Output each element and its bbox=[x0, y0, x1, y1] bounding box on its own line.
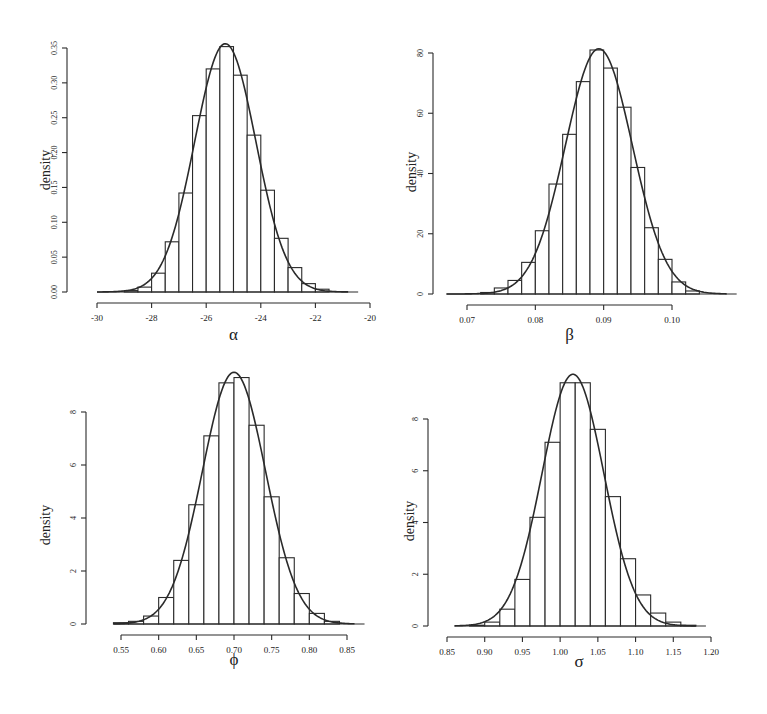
x-tick-label: 0.60 bbox=[151, 645, 167, 655]
histogram-bar bbox=[264, 497, 279, 624]
histogram-bar bbox=[590, 429, 605, 626]
histogram-bar bbox=[515, 579, 530, 626]
x-tick-label: 0.90 bbox=[477, 647, 493, 657]
chart-sigma: 0.850.900.951.001.051.101.151.20σ02468de… bbox=[384, 357, 767, 714]
x-axis-label: ϕ bbox=[230, 650, 239, 669]
histogram-bar bbox=[138, 287, 152, 292]
x-tick-label: 0.95 bbox=[515, 647, 531, 657]
x-axis: 0.070.080.090.10β bbox=[459, 305, 680, 344]
histogram-bar bbox=[261, 190, 275, 292]
x-tick-label: 1.10 bbox=[628, 647, 644, 657]
y-tick-label: 0.35 bbox=[50, 41, 59, 55]
y-tick-label: 6 bbox=[69, 463, 78, 467]
x-tick-label: -30 bbox=[91, 313, 103, 323]
histogram-bar bbox=[220, 47, 234, 292]
histogram-bar bbox=[206, 69, 220, 292]
panel-beta: 0.070.080.090.10β020406080density β dens… bbox=[384, 0, 767, 357]
y-tick-label: 80 bbox=[416, 49, 425, 57]
y-tick-label: 2 bbox=[411, 572, 420, 576]
y-axis: 020406080density bbox=[404, 49, 433, 296]
y-tick-label: 0.10 bbox=[50, 215, 59, 229]
panel-phi: 0.550.600.650.700.750.800.85ϕ02468densit… bbox=[0, 357, 384, 714]
panel-sigma: 0.850.900.951.001.051.101.151.20σ02468de… bbox=[384, 357, 767, 714]
x-tick-label: 0.65 bbox=[188, 645, 204, 655]
x-tick-label: 0.09 bbox=[596, 315, 612, 325]
panel-alpha: -30-28-26-24-22-20α0.000.050.100.150.200… bbox=[0, 0, 384, 357]
x-tick-label: 1.20 bbox=[703, 647, 719, 657]
histogram-bars bbox=[470, 383, 696, 626]
x-axis-label: σ bbox=[574, 652, 583, 671]
histogram-bar bbox=[620, 559, 635, 626]
y-tick-label: 0.30 bbox=[50, 76, 59, 90]
histogram-bar bbox=[590, 50, 604, 294]
y-tick-label: 0.00 bbox=[50, 285, 59, 299]
histogram-bar bbox=[174, 560, 189, 624]
y-tick-label: 6 bbox=[411, 469, 420, 473]
x-tick-label: 1.00 bbox=[552, 647, 568, 657]
histogram-bar bbox=[576, 82, 590, 294]
y-tick-label: 4 bbox=[69, 516, 78, 520]
histogram-bars bbox=[124, 47, 329, 292]
y-tick-label: 0 bbox=[411, 624, 420, 628]
x-axis-label: β bbox=[565, 325, 574, 344]
histogram-bar bbox=[234, 378, 249, 624]
x-tick-label: 1.05 bbox=[590, 647, 606, 657]
y-tick-label: 0 bbox=[416, 292, 425, 296]
x-axis: 0.850.900.951.001.051.101.151.20σ bbox=[439, 637, 719, 671]
y-tick-label: 8 bbox=[411, 417, 420, 421]
x-tick-label: 0.55 bbox=[113, 645, 129, 655]
histogram-bars bbox=[113, 378, 339, 624]
histogram-bar bbox=[159, 598, 174, 625]
x-tick-label: -22 bbox=[309, 313, 321, 323]
y-tick-label: 0.25 bbox=[50, 111, 59, 125]
x-tick-label: -20 bbox=[364, 313, 376, 323]
chart-beta: 0.070.080.090.10β020406080density bbox=[384, 0, 767, 357]
histogram-bar bbox=[530, 517, 545, 626]
y-axis: 02468density bbox=[402, 417, 428, 628]
histogram-bar bbox=[279, 558, 294, 624]
x-axis: 0.550.600.650.700.750.800.85ϕ bbox=[113, 635, 355, 669]
y-axis-label: density bbox=[402, 501, 417, 541]
x-tick-label: -24 bbox=[255, 313, 267, 323]
histogram-bar bbox=[560, 383, 575, 626]
histogram-bar bbox=[604, 68, 618, 294]
histogram-bars bbox=[481, 50, 700, 294]
x-tick-label: 0.75 bbox=[264, 645, 280, 655]
histogram-bar bbox=[575, 383, 590, 626]
x-tick-label: 0.10 bbox=[664, 315, 680, 325]
histogram-bar bbox=[500, 609, 515, 626]
x-tick-label: 0.80 bbox=[301, 645, 317, 655]
x-axis: -30-28-26-24-22-20α bbox=[91, 303, 376, 344]
histogram-bar bbox=[219, 383, 234, 624]
histogram-bar bbox=[617, 107, 631, 294]
histogram-bar bbox=[204, 436, 219, 624]
x-axis-label: α bbox=[229, 325, 238, 344]
histogram-bar bbox=[545, 442, 560, 626]
y-tick-label: 2 bbox=[69, 569, 78, 573]
y-tick-label: 60 bbox=[416, 109, 425, 117]
histogram-bar bbox=[549, 184, 563, 294]
x-tick-label: 0.07 bbox=[459, 315, 475, 325]
y-axis-label: density bbox=[38, 505, 53, 545]
x-tick-label: 0.08 bbox=[527, 315, 543, 325]
y-tick-label: 0.05 bbox=[50, 250, 59, 264]
x-tick-label: 1.15 bbox=[665, 647, 681, 657]
y-axis: 02468density bbox=[38, 410, 86, 626]
chart-phi: 0.550.600.650.700.750.800.85ϕ02468densit… bbox=[0, 357, 384, 714]
chart-alpha: -30-28-26-24-22-20α0.000.050.100.150.200… bbox=[0, 0, 384, 357]
y-tick-label: 8 bbox=[69, 410, 78, 414]
histogram-bar bbox=[658, 259, 672, 294]
histogram-bar bbox=[144, 616, 159, 624]
y-tick-label: 0 bbox=[69, 622, 78, 626]
y-tick-label: 20 bbox=[416, 230, 425, 238]
x-tick-label: -26 bbox=[200, 313, 212, 323]
x-tick-label: 0.85 bbox=[439, 647, 455, 657]
y-axis: 0.000.050.100.150.200.250.300.35density bbox=[38, 41, 67, 299]
x-tick-label: -28 bbox=[146, 313, 158, 323]
y-axis-label: density bbox=[404, 152, 419, 192]
histogram-bar bbox=[234, 75, 248, 292]
histogram-bar bbox=[535, 231, 549, 294]
y-axis-label: density bbox=[38, 150, 53, 190]
x-tick-label: 0.85 bbox=[339, 645, 355, 655]
histogram-bar bbox=[563, 134, 577, 294]
